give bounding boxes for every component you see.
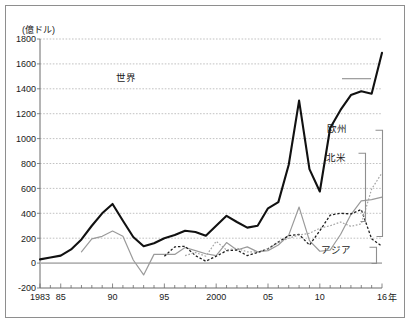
bracket-asia: [370, 247, 377, 263]
series-label-欧州: 欧州: [327, 123, 347, 134]
y-tick-label: 1600: [16, 59, 36, 69]
x-tick-label: 95: [159, 292, 169, 302]
y-tick-label: 1400: [16, 84, 36, 94]
gridlines: [40, 39, 382, 238]
x-axis: 19838590952000051016: [30, 284, 387, 303]
x-tick-label: 85: [56, 292, 66, 302]
x-tick-label: 2000: [206, 292, 226, 302]
line-chart: 180016001400120010008006004002000-200 19…: [0, 0, 410, 323]
y-tick-label: 400: [21, 209, 36, 219]
x-axis-unit-label: 年: [388, 292, 397, 303]
y-tick-label: 1200: [16, 109, 36, 119]
x-tick-label: 05: [263, 292, 273, 302]
y-tick-label: 200: [21, 234, 36, 244]
y-axis: 180016001400120010008006004002000-200: [16, 34, 40, 293]
series-label-アジア: アジア: [321, 244, 351, 255]
x-tick-label: 16: [377, 292, 387, 302]
series-label-世界: 世界: [116, 72, 136, 83]
y-tick-label: 1000: [16, 134, 36, 144]
y-tick-label: 600: [21, 184, 36, 194]
y-tick-label: 800: [21, 159, 36, 169]
unit-label: (億ドル): [22, 24, 55, 35]
figure-container: 180016001400120010008006004002000-200 19…: [0, 0, 410, 323]
x-tick-label: 90: [108, 292, 118, 302]
annotation-leaders: [342, 79, 383, 264]
y-tick-label: 0: [31, 258, 36, 268]
x-tick-label: 1983: [30, 292, 50, 302]
bracket-europe: [376, 130, 383, 236]
series-label-北米: 北米: [326, 152, 346, 163]
y-tick-label: 1800: [16, 34, 36, 44]
x-tick-label: 10: [315, 292, 325, 302]
